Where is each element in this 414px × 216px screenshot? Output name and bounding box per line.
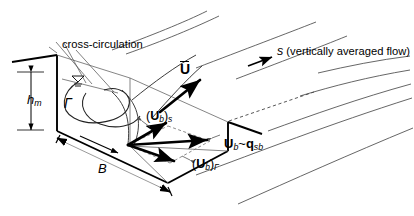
stream-axis-symbol: s: [277, 44, 283, 58]
circulation-label: Γ: [64, 96, 72, 110]
background-streamlines: [112, 11, 413, 204]
cross-circulation-label: cross-circulation: [62, 39, 143, 50]
depth-subscript: m: [34, 98, 41, 108]
depth-averaged-velocity-label: U: [180, 62, 190, 76]
stream-axis-description: (vertically averaged flow): [286, 45, 410, 57]
ub-s-outer-subscript: s: [168, 114, 172, 124]
depth-averaged-velocity-symbol: U: [180, 62, 190, 76]
ub-gamma-symbol: U: [196, 157, 205, 171]
depth-label: hm: [27, 93, 42, 108]
upper-bank-dashed-edge: [229, 92, 314, 121]
relation-symbol: ~: [238, 136, 246, 151]
stream-direction-arrow: [248, 57, 272, 66]
bed-velocity-circulation-label: (Ub)Γ: [192, 158, 219, 172]
ub-s-symbol: U: [150, 109, 159, 123]
diagram-linework: [0, 0, 414, 216]
bed-velocity-streamwise-label: (Ub)s: [146, 110, 172, 124]
bed-velocity-resultant-label: Ub~qsb: [224, 137, 263, 152]
water-surface-symbol: [62, 76, 118, 93]
qsb-subscript: sb: [254, 142, 263, 152]
qsb-symbol: q: [246, 136, 254, 151]
ub-gamma-leader: [182, 156, 190, 160]
ub-gamma-outer-subscript: Γ: [214, 162, 219, 172]
stream-axis-label: s (vertically averaged flow): [277, 45, 410, 58]
ub-symbol: U: [224, 136, 233, 151]
width-label: B: [98, 162, 107, 175]
figure-canvas: cross-circulation hm B Γ s (vertically a…: [0, 0, 414, 216]
depth-averaged-velocity-vector: [160, 80, 200, 112]
channel-bank-and-bed: [12, 55, 262, 183]
ub-resultant-leader: [212, 135, 220, 138]
